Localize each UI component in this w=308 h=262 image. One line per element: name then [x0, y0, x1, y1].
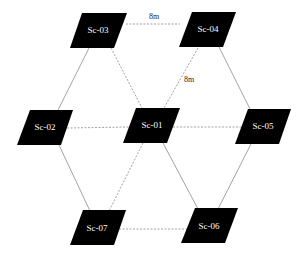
node-label: Sc-04: [198, 24, 219, 34]
node-sc-04[interactable]: Sc-04: [179, 12, 236, 47]
edge-sc04-sc05: [219, 47, 250, 109]
node-sc-02[interactable]: Sc-02: [17, 110, 73, 145]
edge-sc02-sc07: [59, 145, 90, 211]
node-label: Sc-07: [87, 223, 108, 233]
node-label: Sc-05: [253, 121, 274, 131]
edge-label-diagonal: 8m: [184, 75, 195, 84]
node-label: Sc-02: [35, 122, 56, 132]
edge-sc01-sc06: [163, 143, 198, 209]
node-sc-01[interactable]: Sc-01: [123, 108, 180, 143]
edge-sc05-sc06: [218, 144, 251, 209]
node-label: Sc-01: [142, 120, 163, 130]
network-diagram: 8m 8m Sc-03 Sc-04 Sc-02 Sc-01 Sc-05 Sc-0…: [0, 0, 308, 262]
node-sc-03[interactable]: Sc-03: [70, 13, 127, 48]
node-sc-07[interactable]: Sc-07: [70, 210, 126, 245]
node-sc-05[interactable]: Sc-05: [235, 109, 291, 144]
node-sc-06[interactable]: Sc-06: [181, 208, 238, 243]
edge-label-top: 8m: [149, 12, 160, 21]
edge-sc03-sc02: [58, 48, 89, 110]
node-label: Sc-03: [88, 25, 109, 35]
edge-sc01-sc07: [109, 143, 143, 211]
edge-sc03-sc01: [111, 48, 142, 108]
node-label: Sc-06: [199, 221, 220, 231]
edge-sc02-sc01: [67, 127, 130, 128]
